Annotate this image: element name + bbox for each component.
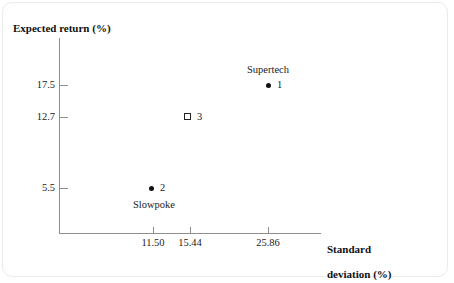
point-name-supertech: Supertech: [238, 64, 298, 75]
x-tick-mark-11-50: [153, 227, 154, 233]
y-axis-line: [59, 38, 60, 234]
x-tick-mark-25-86: [268, 227, 269, 233]
y-tick-label-17-5: 17.5: [13, 79, 55, 90]
x-tick-label-25-86: 25.86: [245, 237, 291, 248]
x-axis-title-line1: Standard: [327, 243, 371, 255]
data-point-2-marker[interactable]: [149, 186, 154, 191]
y-tick-label-12-7: 12.7: [13, 111, 55, 122]
y-tick-mark-17-5: [60, 85, 68, 86]
data-point-3-label: 3: [197, 111, 202, 122]
point-name-slowpoke: Slowpoke: [124, 199, 184, 210]
data-point-3-marker[interactable]: [184, 113, 191, 120]
x-axis-title-line2: deviation (%): [327, 268, 391, 280]
data-point-2-label: 2: [160, 182, 165, 193]
risk-return-scatter-plot: Expected return (%) Standard deviation (…: [0, 0, 454, 283]
y-tick-mark-5-5: [60, 188, 68, 189]
y-axis-title: Expected return (%): [13, 22, 111, 35]
x-axis-title: Standard deviation (%): [327, 230, 391, 280]
x-axis-line: [59, 233, 321, 234]
data-point-1-marker[interactable]: [266, 83, 271, 88]
y-tick-label-5-5: 5.5: [13, 182, 55, 193]
x-tick-mark-15-44: [190, 227, 191, 233]
y-tick-mark-12-7: [60, 117, 68, 118]
x-tick-label-15-44: 15.44: [167, 237, 213, 248]
data-point-1-label: 1: [277, 79, 282, 90]
